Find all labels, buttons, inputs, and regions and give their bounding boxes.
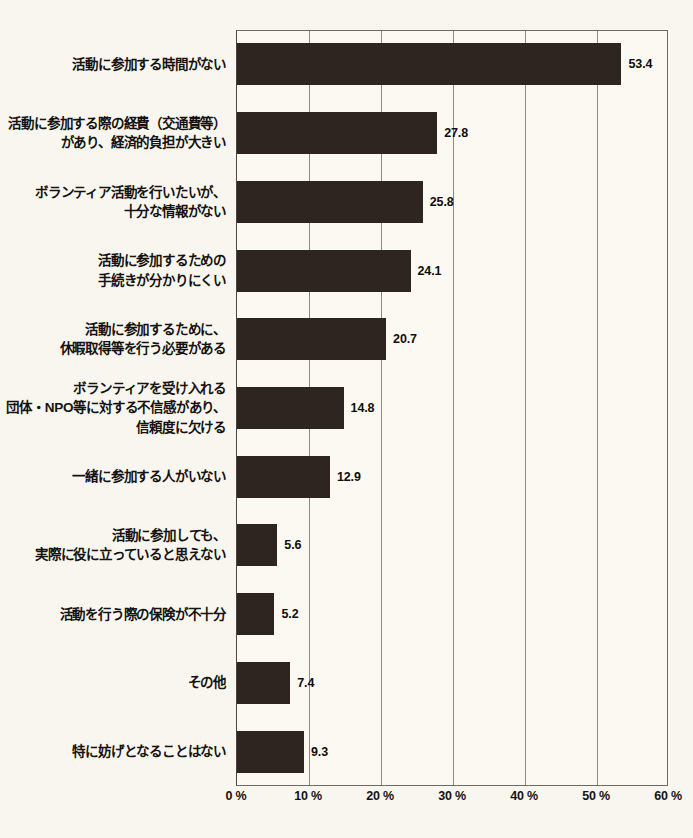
chart-row: 活動に参加しても、 実際に役に立っていると思えない5.6 (0, 511, 693, 580)
chart-row: 活動に参加する時間がない53.4 (0, 30, 693, 99)
bar-value-label: 12.9 (330, 456, 361, 498)
x-tick-label: 10 % (294, 789, 322, 803)
bar-value-label: 27.8 (437, 112, 468, 154)
bar-chart-figure: 活動に参加する時間がない53.4活動に参加する際の経費（交通費等） があり、経済… (0, 0, 693, 838)
bar (237, 112, 437, 154)
category-label: ボランティアを受け入れる 団体・NPO等に対する不信感があり、 信頼度に欠ける (0, 374, 232, 443)
x-axis: 0 %10 %20 %30 %40 %50 %60 % (0, 789, 693, 813)
bar (237, 250, 411, 292)
bar-rows: 活動に参加する時間がない53.4活動に参加する際の経費（交通費等） があり、経済… (0, 30, 693, 786)
category-label: 活動に参加しても、 実際に役に立っていると思えない (0, 511, 232, 580)
x-tick-label: 60 % (654, 789, 682, 803)
category-label: 活動に参加するための 手続きが分かりにくい (0, 236, 232, 305)
chart-row: 活動に参加するための 手続きが分かりにくい24.1 (0, 236, 693, 305)
category-label: 特に妨げとなることはない (0, 717, 232, 786)
bar (237, 43, 621, 85)
x-tick-label: 20 % (366, 789, 394, 803)
x-tick-label: 0 % (226, 789, 247, 803)
chart-row: 活動に参加するために、 休暇取得等を行う必要がある20.7 (0, 305, 693, 374)
x-tick-label: 50 % (582, 789, 610, 803)
bar-value-label: 24.1 (411, 250, 442, 292)
category-label: その他 (0, 649, 232, 718)
chart-row: 一緒に参加する人がいない12.9 (0, 442, 693, 511)
chart-row: その他7.4 (0, 649, 693, 718)
bar-value-label: 5.6 (277, 524, 301, 566)
chart-row: 特に妨げとなることはない9.3 (0, 717, 693, 786)
bar (237, 662, 290, 704)
x-tick-label: 30 % (438, 789, 466, 803)
chart-row: 活動を行う際の保険が不十分5.2 (0, 580, 693, 649)
bar-value-label: 9.3 (304, 731, 328, 773)
category-label: 活動に参加するために、 休暇取得等を行う必要がある (0, 305, 232, 374)
bar (237, 593, 274, 635)
bar-value-label: 7.4 (290, 662, 314, 704)
x-tick-label: 40 % (510, 789, 538, 803)
bar-value-label: 14.8 (344, 387, 375, 429)
bar (237, 387, 344, 429)
category-label: 一緒に参加する人がいない (0, 442, 232, 511)
bar (237, 456, 330, 498)
category-label: 活動を行う際の保険が不十分 (0, 580, 232, 649)
category-label: 活動に参加する時間がない (0, 30, 232, 99)
bar (237, 524, 277, 566)
chart-row: ボランティアを受け入れる 団体・NPO等に対する不信感があり、 信頼度に欠ける1… (0, 374, 693, 443)
bar (237, 318, 386, 360)
bar (237, 181, 423, 223)
bar-value-label: 53.4 (621, 43, 652, 85)
chart-row: ボランティア活動を行いたいが、 十分な情報がない25.8 (0, 167, 693, 236)
category-label: ボランティア活動を行いたいが、 十分な情報がない (0, 167, 232, 236)
chart-row: 活動に参加する際の経費（交通費等） があり、経済的負担が大きい27.8 (0, 99, 693, 168)
bar-value-label: 5.2 (274, 593, 298, 635)
bar-value-label: 20.7 (386, 318, 417, 360)
bar-value-label: 25.8 (423, 181, 454, 223)
category-label: 活動に参加する際の経費（交通費等） があり、経済的負担が大きい (0, 99, 232, 168)
bar (237, 731, 304, 773)
figure-caption (22, 824, 422, 838)
